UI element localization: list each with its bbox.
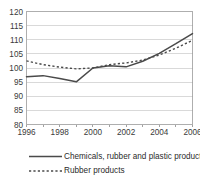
y-axis-tick-label: 85 (14, 106, 24, 115)
x-axis-tick-label: 2002 (117, 128, 136, 137)
legend-label-0: Chemicals, rubber and plastic products (64, 152, 200, 161)
series-line-0 (27, 34, 193, 82)
y-axis-tick-labels: 80859095100105110115120 (9, 8, 23, 130)
x-axis-tick-label: 2004 (150, 128, 169, 137)
gridlines (27, 26, 193, 111)
y-axis-tick-label: 120 (9, 8, 23, 17)
x-axis-tick-label: 2006 (183, 128, 200, 137)
x-axis-tick-labels: 199619982000200220042006 (17, 128, 200, 137)
y-axis-tick-label: 100 (9, 64, 23, 73)
y-axis-tick-label: 110 (10, 36, 23, 45)
x-axis-tick-label: 1996 (17, 128, 36, 137)
chart-legend: Chemicals, rubber and plastic productsRu… (29, 152, 200, 176)
series-line-1 (27, 40, 193, 69)
y-axis-tick-label: 105 (9, 50, 23, 59)
x-axis-tick-label: 2000 (84, 128, 103, 137)
y-axis-tick-label: 95 (14, 78, 24, 87)
y-axis-tick-label: 115 (10, 22, 23, 31)
x-axis-tick-label: 1998 (51, 128, 70, 137)
data-series-group (27, 34, 193, 82)
chart-container: 80859095100105110115120 1996199820002002… (0, 0, 200, 179)
line-chart: 80859095100105110115120 1996199820002002… (0, 0, 200, 179)
legend-label-1: Rubber products (64, 166, 125, 175)
y-axis-tick-label: 90 (14, 92, 24, 101)
